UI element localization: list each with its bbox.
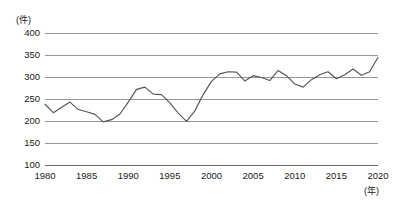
data-series-layer — [45, 57, 378, 122]
gridlines — [45, 34, 378, 166]
figure-caption — [10, 203, 397, 212]
series-line-0 — [45, 57, 378, 122]
line-chart: (件) (年) 400350300250200150100 1980198519… — [0, 0, 397, 212]
plot-area — [0, 0, 397, 212]
